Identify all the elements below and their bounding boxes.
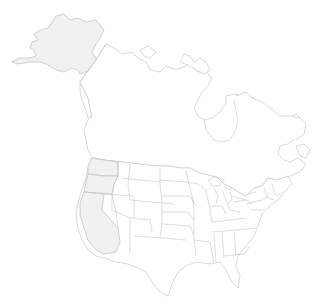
map-container — [0, 0, 328, 306]
region-newfoundland — [296, 144, 310, 158]
region-alaska[interactable] — [12, 14, 104, 74]
region-arctic-island-2 — [140, 46, 156, 58]
north-america-map — [0, 0, 328, 306]
